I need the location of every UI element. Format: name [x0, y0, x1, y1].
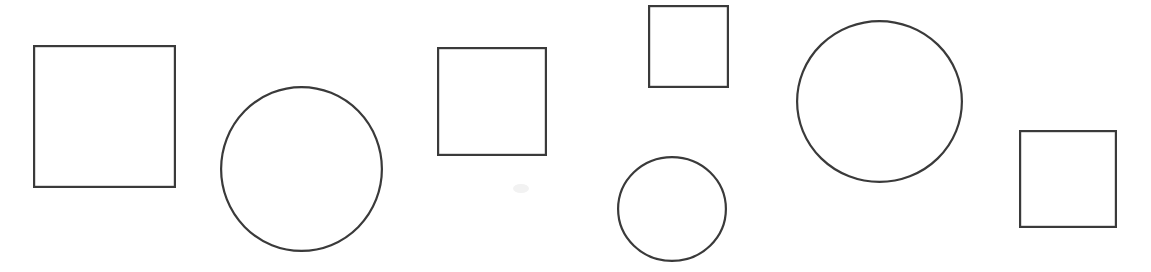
square-4: Square 4	[1020, 131, 1116, 227]
square-2: Square 2	[438, 48, 546, 155]
circle-2: Circle 2	[618, 157, 726, 261]
circle-1: Circle 1	[221, 87, 382, 251]
shapes-svg: Square 1Circle 1Square 2Square 3Circle 2…	[0, 0, 1151, 272]
square-1: Square 1	[34, 46, 175, 187]
shapes-canvas: Square 1Circle 1Square 2Square 3Circle 2…	[0, 0, 1151, 272]
shape-layer: Square 1Circle 1Square 2Square 3Circle 2…	[34, 6, 1116, 261]
circle-3: Circle 3	[797, 21, 962, 182]
square-3: Square 3	[649, 6, 728, 87]
